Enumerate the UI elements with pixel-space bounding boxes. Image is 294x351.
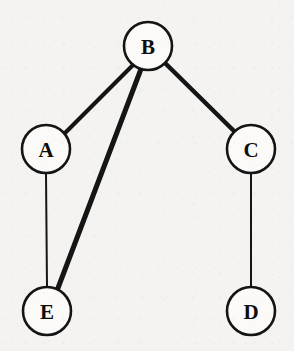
edge-b-e	[58, 69, 141, 288]
graph-node-b[interactable]: B	[124, 22, 172, 70]
graph-node-e[interactable]: E	[23, 287, 71, 335]
node-label-c: C	[243, 138, 258, 162]
graph-node-a[interactable]: A	[22, 125, 70, 173]
node-label-a: A	[38, 138, 54, 162]
node-label-e: E	[40, 300, 54, 324]
graph-node-d[interactable]: D	[227, 287, 275, 335]
edge-b-c	[165, 63, 236, 133]
graph-diagram: B A C E D	[0, 0, 294, 351]
graph-canvas: B A C E D	[0, 0, 294, 351]
node-label-d: D	[243, 300, 258, 324]
edge-a-e	[46, 173, 47, 287]
edge-layer	[46, 63, 251, 288]
graph-node-c[interactable]: C	[227, 125, 275, 173]
edge-a-b	[64, 64, 134, 134]
node-label-b: B	[141, 35, 155, 59]
